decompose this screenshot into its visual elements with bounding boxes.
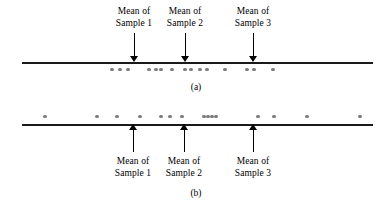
arrow-head-icon bbox=[180, 124, 188, 130]
data-point bbox=[138, 115, 141, 118]
figure-canvas: Mean ofSample 1Mean ofSample 2Mean ofSam… bbox=[0, 0, 391, 205]
data-point bbox=[43, 115, 46, 118]
data-point bbox=[159, 115, 162, 118]
data-point bbox=[168, 115, 171, 118]
mean-label-line1: Mean of bbox=[213, 156, 293, 168]
data-point bbox=[358, 115, 361, 118]
data-point bbox=[256, 115, 259, 118]
mean-arrow-sample-3 bbox=[249, 124, 258, 152]
data-point bbox=[95, 115, 98, 118]
mean-arrow-sample-2 bbox=[180, 124, 189, 152]
data-point bbox=[115, 115, 118, 118]
number-line-b bbox=[22, 124, 373, 126]
panel-caption-a: (a) bbox=[176, 82, 216, 92]
mean-label-line2: Sample 2 bbox=[144, 168, 224, 180]
data-point bbox=[210, 115, 213, 118]
arrow-head-icon bbox=[249, 124, 257, 130]
data-point bbox=[214, 115, 217, 118]
panel-b: Mean ofSample 1Mean ofSample 2Mean ofSam… bbox=[0, 0, 391, 205]
mean-label-line1: Mean of bbox=[144, 156, 224, 168]
arrow-shaft bbox=[184, 130, 185, 152]
data-point bbox=[180, 115, 183, 118]
arrow-shaft bbox=[133, 130, 134, 152]
mean-label-sample-3: Mean ofSample 3 bbox=[213, 156, 293, 179]
arrow-shaft bbox=[253, 130, 254, 152]
data-point bbox=[272, 115, 275, 118]
mean-label-line2: Sample 3 bbox=[213, 168, 293, 180]
data-point bbox=[305, 115, 308, 118]
arrow-head-icon bbox=[129, 124, 137, 130]
mean-arrow-sample-1 bbox=[129, 124, 138, 152]
data-point bbox=[202, 115, 205, 118]
mean-label-sample-2: Mean ofSample 2 bbox=[144, 156, 224, 179]
panel-caption-b: (b) bbox=[176, 188, 216, 198]
data-point bbox=[206, 115, 209, 118]
